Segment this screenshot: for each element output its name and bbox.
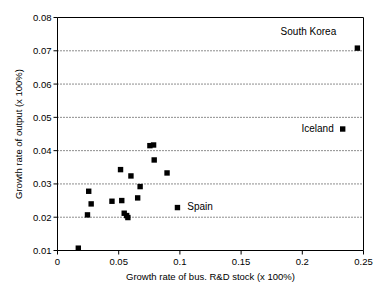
data-points-group (76, 45, 360, 250)
data-point-11 (135, 195, 140, 200)
data-point-14 (151, 142, 156, 147)
y-tick-label-4: 0.05 (33, 112, 52, 123)
x-tick-label-0: 0 (55, 256, 60, 267)
scatter-chart-figure: 0.010.020.030.040.050.060.070.08 00.050.… (0, 0, 389, 292)
data-point-4 (109, 199, 114, 204)
axis-titles-group: Growth rate of bus. R&D stock (x 100%)Gr… (13, 69, 295, 281)
annotation-iceland: Iceland (301, 123, 333, 134)
chart-canvas: 0.010.020.030.040.050.060.070.08 00.050.… (0, 0, 389, 292)
data-point-5 (118, 167, 123, 172)
data-point-3 (88, 201, 93, 206)
data-point-south-korea (355, 45, 360, 50)
x-axis-title: Growth rate of bus. R&D stock (x 100%) (126, 271, 295, 282)
x-axis-ticks-group: 00.050.10.150.20.25 (55, 251, 373, 267)
y-tick-label-5: 0.06 (33, 79, 52, 90)
annotation-spain: Spain (187, 201, 213, 212)
data-point-6 (119, 198, 124, 203)
data-point-10 (128, 173, 133, 178)
plot-frame-group (58, 18, 364, 251)
data-point-9 (125, 215, 130, 220)
x-tick-label-1: 0.05 (109, 256, 128, 267)
y-tick-label-2: 0.03 (33, 178, 52, 189)
data-point-15 (151, 157, 156, 162)
gridlines-group (58, 51, 364, 217)
y-tick-label-0: 0.01 (33, 245, 52, 256)
y-tick-label-1: 0.02 (33, 212, 52, 223)
y-tick-label-3: 0.04 (33, 145, 52, 156)
x-tick-label-3: 0.15 (232, 256, 251, 267)
point-annotations-group: South KoreaIcelandSpain (187, 26, 336, 212)
data-point-12 (137, 184, 142, 189)
annotation-south-korea: South Korea (281, 26, 337, 37)
data-point-0 (76, 245, 81, 250)
data-point-iceland (340, 126, 345, 131)
data-point-1 (85, 212, 90, 217)
data-point-spain (175, 205, 180, 210)
data-point-2 (86, 189, 91, 194)
y-axis-ticks-group: 0.010.020.030.040.050.060.070.08 (33, 12, 58, 256)
y-tick-label-6: 0.07 (33, 45, 52, 56)
y-tick-label-7: 0.08 (33, 12, 52, 23)
x-tick-label-4: 0.2 (296, 256, 309, 267)
y-axis-title: Growth rate of output (x 100%) (13, 69, 24, 199)
x-tick-label-2: 0.1 (173, 256, 186, 267)
x-tick-label-5: 0.25 (354, 256, 373, 267)
data-point-16 (164, 170, 169, 175)
